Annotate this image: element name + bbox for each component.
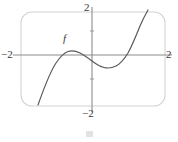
graph-canvas xyxy=(0,0,178,142)
function-graph-figure: −2 2 2 −2 f xyxy=(0,0,178,142)
x-axis-label-left: −2 xyxy=(1,49,13,60)
function-curve xyxy=(38,10,148,105)
scan-smudge-artifact xyxy=(86,131,93,137)
y-axis-label-top: 2 xyxy=(84,2,90,13)
y-axis-label-bottom: −2 xyxy=(82,108,94,119)
curve-name-label: f xyxy=(63,33,66,44)
x-axis-label-right: 2 xyxy=(166,49,172,60)
